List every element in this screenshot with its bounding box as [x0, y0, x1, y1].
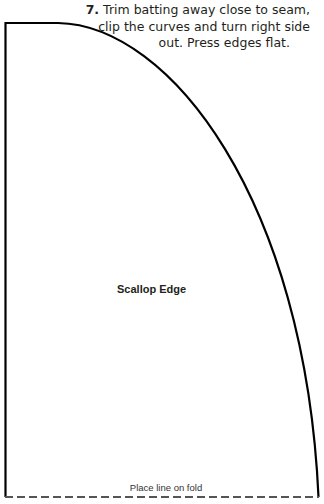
pattern-piece-outline	[0, 0, 324, 504]
step-number: 7.	[86, 2, 99, 17]
piece-label: Scallop Edge	[117, 283, 186, 295]
instruction-line-2: clip the curves and turn right side	[70, 19, 310, 36]
fold-label: Place line on fold	[0, 482, 324, 493]
step-instruction: 7. Trim batting away close to seam, clip…	[70, 2, 310, 52]
instruction-line-3: out. Press edges flat.	[70, 35, 310, 52]
instruction-text-1: Trim batting away close to seam,	[103, 2, 310, 17]
scallop-edge-outline	[6, 23, 319, 497]
instruction-line-1: 7. Trim batting away close to seam,	[70, 2, 310, 19]
